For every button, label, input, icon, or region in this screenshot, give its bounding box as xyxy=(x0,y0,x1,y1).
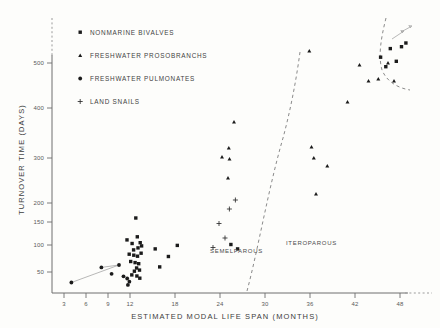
y-tick-label-100: 100 xyxy=(33,242,44,248)
x-tick-label-12: 12 xyxy=(126,301,134,307)
data-point xyxy=(314,192,318,196)
y-tick-label-150: 150 xyxy=(33,219,44,225)
data-point xyxy=(132,248,135,251)
data-point xyxy=(136,235,139,238)
data-point xyxy=(110,272,114,276)
data-point xyxy=(125,277,129,281)
data-point xyxy=(139,252,142,255)
x-tick-label-48: 48 xyxy=(396,301,404,307)
data-point xyxy=(137,262,140,265)
plot-canvas: 500 400 300 200 150 100 50 TURNOVER TIME… xyxy=(0,0,440,328)
data-point xyxy=(379,56,382,59)
legend-label-land-snails: LAND SNAILS xyxy=(90,98,140,105)
data-point xyxy=(133,261,136,264)
y-tick-label-200: 200 xyxy=(33,200,44,206)
circle-filled-icon xyxy=(78,77,82,81)
data-point xyxy=(138,268,141,271)
y-tick-label-500: 500 xyxy=(33,60,44,66)
legend-label-bivalves: NONMARINE BIVALVES xyxy=(90,29,174,36)
data-point xyxy=(310,145,314,149)
data-point xyxy=(229,243,232,246)
data-point xyxy=(392,79,396,83)
data-point xyxy=(138,277,141,280)
x-axis-title: ESTIMATED MODAL LIFE SPAN (MONTHS) xyxy=(131,312,319,321)
data-point xyxy=(384,65,387,68)
data-point xyxy=(232,120,236,124)
data-point xyxy=(228,157,232,161)
x-axis: 3 6 9 12 18 24 30 36 42 48 ESTIMATED MOD… xyxy=(52,293,432,321)
data-point xyxy=(367,79,371,83)
data-point xyxy=(376,77,380,81)
data-point xyxy=(133,270,136,273)
data-point xyxy=(223,236,228,241)
data-point xyxy=(176,244,179,247)
connector-lines xyxy=(71,26,412,283)
data-point xyxy=(154,247,157,250)
semelparous-iteroparous-divider xyxy=(247,52,300,291)
y-tick-label-300: 300 xyxy=(33,155,44,161)
data-point xyxy=(70,281,74,285)
scatter-plot-figure: 500 400 300 200 150 100 50 TURNOVER TIME… xyxy=(0,0,440,328)
x-tick-label-6: 6 xyxy=(84,301,88,307)
data-point xyxy=(130,273,133,276)
y-tick-label-50: 50 xyxy=(37,269,45,275)
legend-label-prosobranchs: FRESHWATER PROSOBRANCHS xyxy=(90,52,207,59)
data-point xyxy=(312,156,316,160)
data-point xyxy=(125,238,128,241)
y-tick-label-400: 400 xyxy=(33,105,44,111)
series-land-snails xyxy=(211,198,238,251)
x-tick-label-18: 18 xyxy=(171,301,179,307)
data-point xyxy=(158,265,161,268)
x-tick-label-24: 24 xyxy=(216,301,224,307)
series-freshwater-pulmonates xyxy=(70,263,132,287)
data-point xyxy=(100,266,104,270)
data-point xyxy=(404,41,407,44)
bivalve-group-arc xyxy=(380,18,410,90)
annotation-iteroparous: ITEROPAROUS xyxy=(286,240,337,246)
data-point xyxy=(132,254,135,257)
data-point xyxy=(135,274,138,277)
data-point xyxy=(307,49,311,53)
y-axis-title: TURNOVER TIME (DAYS) xyxy=(17,104,26,215)
data-point xyxy=(129,260,132,263)
data-point xyxy=(117,263,121,267)
data-point xyxy=(135,266,138,269)
y-axis: 500 400 300 200 150 100 50 TURNOVER TIME… xyxy=(17,18,52,293)
data-point xyxy=(136,246,139,249)
data-point xyxy=(226,176,230,180)
data-point xyxy=(130,242,133,245)
data-point xyxy=(136,255,139,258)
data-point xyxy=(358,63,362,67)
square-filled-icon xyxy=(79,31,82,34)
x-tick-label-30: 30 xyxy=(261,301,269,307)
x-tick-label-42: 42 xyxy=(351,301,359,307)
legend-label-pulmonates: FRESHWATER PULMONATES xyxy=(90,75,195,82)
data-point xyxy=(134,216,137,219)
triangle-filled-icon xyxy=(78,54,82,58)
x-tick-label-36: 36 xyxy=(306,301,314,307)
data-point xyxy=(346,100,350,104)
x-tick-label-9: 9 xyxy=(106,301,110,307)
data-point xyxy=(122,274,126,278)
data-point xyxy=(227,207,232,212)
data-point xyxy=(389,47,392,50)
data-point xyxy=(325,164,329,168)
data-point xyxy=(217,221,222,226)
data-point xyxy=(140,244,143,247)
data-point xyxy=(167,255,170,258)
data-point xyxy=(126,283,130,287)
data-point xyxy=(139,241,142,244)
data-point xyxy=(128,253,131,256)
data-point xyxy=(386,61,390,65)
data-point xyxy=(227,146,231,150)
data-point xyxy=(400,45,403,48)
legend: NONMARINE BIVALVES FRESHWATER PROSOBRANC… xyxy=(78,29,208,106)
annotation-semelparous: SEMELPAROUS xyxy=(210,248,263,254)
x-tick-label-3: 3 xyxy=(62,301,66,307)
data-point xyxy=(220,155,224,159)
data-point xyxy=(395,60,398,63)
series-freshwater-prosobranchs xyxy=(220,49,396,196)
cross-icon xyxy=(78,99,83,104)
data-point xyxy=(233,198,238,203)
